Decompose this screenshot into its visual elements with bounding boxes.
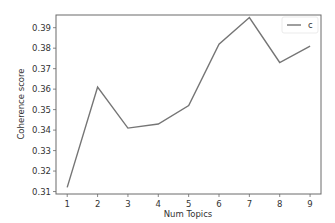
x-tick-label: 1 [65,199,70,209]
x-tick-label: 4 [156,199,161,209]
y-tick-label: 0.34 [32,125,51,135]
y-axis-ticks: 0.310.320.330.340.350.360.370.380.39 [32,23,56,197]
y-tick-label: 0.31 [32,187,51,197]
y-tick-label: 0.39 [32,23,51,33]
y-tick-label: 0.37 [32,64,51,74]
y-axis-label: Coherence score [16,68,26,139]
x-axis-ticks: 123456789 [65,194,313,209]
x-tick-label: 2 [95,199,100,209]
y-tick-label: 0.36 [32,84,51,94]
x-axis-label: Num Topics [164,209,213,219]
y-tick-label: 0.38 [32,43,51,53]
legend-label: c [308,20,313,30]
line-chart: 0.310.320.330.340.350.360.370.380.39 123… [0,0,335,223]
x-tick-label: 6 [216,199,221,209]
x-tick-label: 8 [277,199,282,209]
x-tick-label: 7 [247,199,252,209]
x-tick-label: 3 [125,199,130,209]
y-tick-label: 0.35 [32,105,51,115]
x-tick-label: 5 [186,199,191,209]
y-tick-label: 0.32 [32,166,51,176]
x-tick-label: 9 [307,199,312,209]
legend: c [282,17,318,33]
y-tick-label: 0.33 [32,146,51,156]
